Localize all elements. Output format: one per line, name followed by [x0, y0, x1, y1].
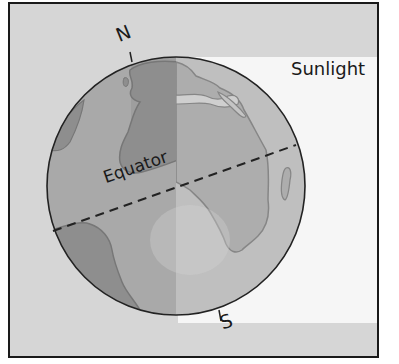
earth-globe [0, 0, 399, 364]
north-pole-tick [130, 52, 132, 62]
globe-surface [40, 50, 316, 330]
sunlight-label: Sunlight [291, 58, 365, 79]
